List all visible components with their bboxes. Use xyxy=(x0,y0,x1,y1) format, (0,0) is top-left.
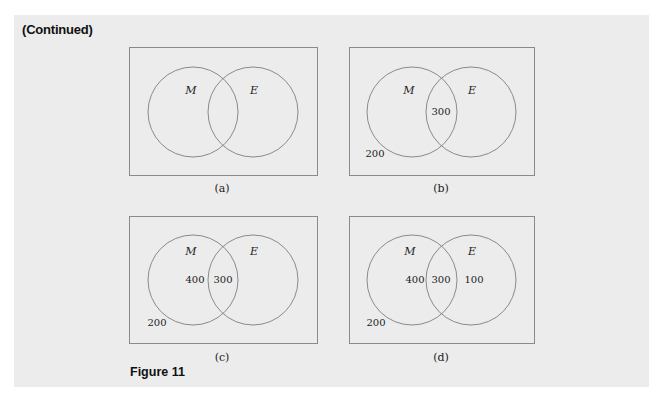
panel-caption: (a) xyxy=(214,182,229,195)
figure-label: Figure 11 xyxy=(130,365,185,379)
circle-e-a xyxy=(208,67,298,157)
circle-m-a xyxy=(148,67,238,157)
set-label-e: E xyxy=(249,84,258,97)
panel-caption: (d) xyxy=(433,351,449,364)
set-label-m: M xyxy=(403,245,416,258)
count-only-m: 400 xyxy=(185,274,204,285)
count-both: 300 xyxy=(213,274,232,285)
panel-caption: (c) xyxy=(215,351,230,364)
set-label-e: E xyxy=(249,245,258,258)
set-label-m: M xyxy=(184,245,197,258)
set-label-e: E xyxy=(467,245,476,258)
set-label-m: M xyxy=(402,84,415,97)
panel-caption: (b) xyxy=(433,182,449,195)
count-neither: 200 xyxy=(366,317,385,328)
count-only-e: 100 xyxy=(464,274,483,285)
universe-rect-a xyxy=(130,48,318,176)
count-neither: 200 xyxy=(147,317,166,328)
count-both: 300 xyxy=(431,274,450,285)
set-label-e: E xyxy=(467,84,476,97)
count-only-m: 400 xyxy=(405,274,424,285)
set-label-m: M xyxy=(184,84,197,97)
venn-diagrams: M E (a) M E 300 200 (b) M E 400 300 200 … xyxy=(0,0,664,396)
count-neither: 200 xyxy=(365,148,384,159)
count-both: 300 xyxy=(431,106,450,117)
